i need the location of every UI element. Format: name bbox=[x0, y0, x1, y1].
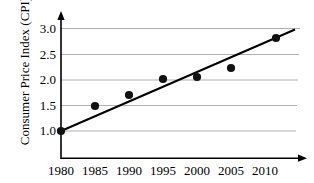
x-tick-label-2010: 2010 bbox=[245, 164, 285, 177]
data-point-1990 bbox=[125, 91, 133, 99]
y-axis bbox=[57, 11, 64, 159]
data-point-2011 bbox=[272, 34, 280, 42]
x-axis-arrowhead bbox=[298, 155, 307, 162]
y-tick-label-2-5: 2.5 bbox=[26, 48, 56, 61]
data-point-2005 bbox=[227, 64, 235, 72]
y-tick-label-1-0: 1.0 bbox=[26, 124, 56, 137]
y-axis-arrowhead bbox=[57, 11, 64, 20]
y-tick-label-1-5: 1.5 bbox=[26, 99, 56, 112]
data-point-1985 bbox=[91, 102, 99, 110]
x-axis bbox=[61, 155, 307, 162]
cpi-scatter-chart: Consumer Price Index (CPI) bbox=[0, 0, 314, 183]
y-tick-label-2-0: 2.0 bbox=[26, 73, 56, 86]
data-point-1980 bbox=[57, 127, 65, 135]
data-point-2000 bbox=[193, 73, 201, 81]
data-point-1995 bbox=[159, 75, 167, 83]
y-tick-label-3-0: 3.0 bbox=[26, 22, 56, 35]
